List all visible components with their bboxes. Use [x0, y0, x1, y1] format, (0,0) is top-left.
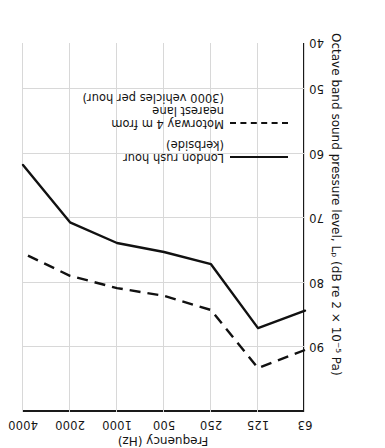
x-tick-125: 125 — [247, 418, 270, 432]
series-line-motorway — [23, 253, 305, 368]
x-tick-63: 63 — [297, 418, 312, 432]
x-tick-500: 500 — [153, 418, 176, 432]
x-tick-1000: 1000 — [102, 418, 132, 432]
series-line-london-rush-hour — [23, 165, 305, 328]
x-axis-title: Frequency (Hz) — [118, 434, 209, 448]
x-tick-2000: 2000 — [55, 418, 85, 432]
x-tick-4000: 4000 — [8, 418, 38, 432]
x-tick-250: 250 — [200, 418, 223, 432]
